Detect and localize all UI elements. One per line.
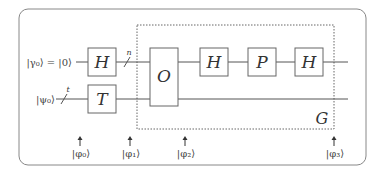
outer-frame: [19, 9, 366, 165]
gate-h3-label: H: [301, 52, 318, 72]
arrow-up-icon: [78, 136, 83, 146]
gate-oracle-label: O: [157, 66, 171, 86]
group-label: G: [316, 109, 329, 128]
state-label-0: |φ₀⟩: [72, 148, 90, 160]
state-label-2: |φ₂⟩: [177, 148, 195, 160]
gate-t-label: T: [96, 89, 109, 109]
gate-h1-label: H: [94, 52, 111, 72]
gate-h2-label: H: [206, 52, 223, 72]
circuit-diagram: H T O H P H n t |γ₀⟩ = |0⟩ |ψ₀⟩ G |φ₀⟩ |…: [0, 0, 370, 174]
input-label-top: |γ₀⟩ = |0⟩: [26, 57, 72, 69]
arrow-up-icon: [183, 136, 188, 146]
input-label-bottom: |ψ₀⟩: [36, 94, 55, 106]
gate-p-label: P: [255, 52, 268, 72]
state-label-3: |φ₃⟩: [326, 148, 344, 160]
arrow-up-icon: [332, 136, 337, 146]
wire-size-n: n: [126, 48, 131, 57]
arrow-up-icon: [128, 136, 133, 146]
state-label-1: |φ₁⟩: [122, 148, 140, 160]
wire-size-t: t: [66, 85, 70, 94]
